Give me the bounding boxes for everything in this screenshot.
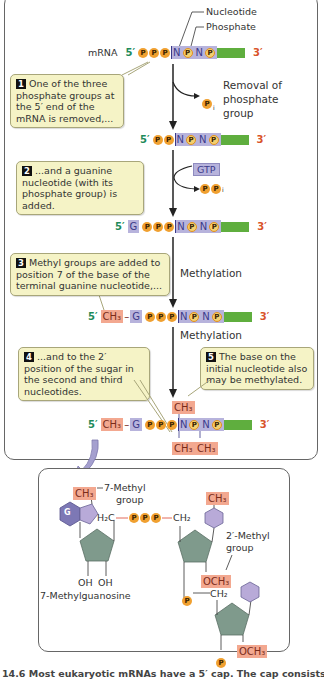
phosphate-link-1: P	[182, 588, 193, 607]
h2c-label: H₂C	[97, 512, 115, 523]
figure-caption: 14.6 Most eukaryotic mRNAs have a 5′ cap…	[2, 668, 324, 679]
och3-1: OCH₃	[201, 570, 231, 589]
triphosphate-bridge: PPP	[129, 513, 162, 523]
oh-label-2: OH	[98, 577, 113, 588]
oh-label-1: OH	[78, 577, 93, 588]
ch2-label-1: CH₂	[173, 512, 191, 523]
och3-2: OCH₃	[237, 640, 267, 659]
cap-structure-diagram	[0, 0, 324, 683]
methylguanosine-label: 7-Methylguanosine	[40, 590, 131, 601]
base-ch3: CH₃	[206, 487, 229, 506]
methyl7-ch3: CH₃	[73, 482, 96, 501]
phosphate-link-2: P	[216, 650, 227, 669]
methyl7-label: 7-Methyl group	[104, 482, 146, 506]
guanine-label: G	[64, 508, 71, 517]
methyl2-label: 2′-Methyl group	[226, 530, 270, 554]
ch2-label-2: CH₂	[210, 588, 228, 599]
